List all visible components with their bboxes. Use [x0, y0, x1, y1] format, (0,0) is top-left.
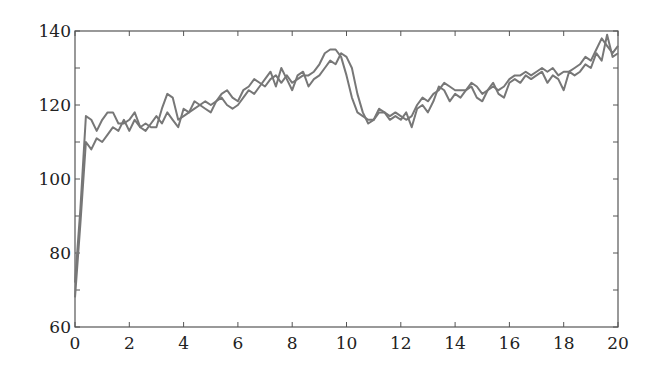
x-tick-label: 2 [124, 333, 135, 353]
x-axis-tick-labels: 02468101214161820 [70, 333, 629, 353]
y-tick-label: 60 [49, 317, 71, 337]
x-tick-label: 20 [607, 333, 629, 353]
y-tick-label: 140 [39, 21, 71, 41]
y-tick-label: 120 [39, 95, 71, 115]
x-tick-label: 18 [553, 333, 575, 353]
y-tick-label: 100 [39, 169, 71, 189]
x-tick-label: 4 [178, 333, 189, 353]
x-tick-label: 12 [390, 333, 412, 353]
data-series [75, 35, 618, 298]
x-tick-label: 8 [287, 333, 298, 353]
y-axis-tick-labels: 6080100120140 [39, 21, 71, 337]
x-tick-label: 14 [444, 333, 466, 353]
x-tick-label: 0 [70, 333, 81, 353]
x-tick-label: 16 [499, 333, 521, 353]
x-tick-label: 10 [336, 333, 358, 353]
x-tick-label: 6 [232, 333, 243, 353]
y-tick-label: 80 [49, 243, 71, 263]
line-chart: 02468101214161820 6080100120140 [0, 0, 655, 369]
